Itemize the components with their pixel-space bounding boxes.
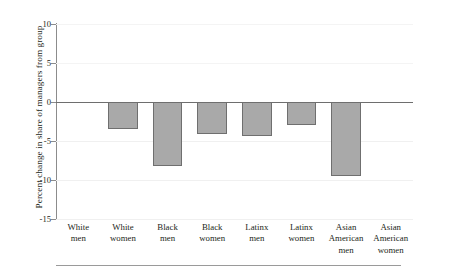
- y-axis-tick-label: 0: [17, 97, 51, 107]
- bar: [197, 102, 226, 134]
- bar: [108, 102, 137, 129]
- y-axis-tick-label: -10: [17, 175, 51, 185]
- y-axis-tick: [51, 180, 56, 181]
- gridline: [56, 180, 413, 181]
- bar-chart-figure: Percent change in share of managers from…: [0, 0, 449, 275]
- y-axis-line: [56, 23, 57, 220]
- x-axis-category-label-line: Asian: [364, 222, 417, 233]
- y-axis-tick: [51, 219, 56, 220]
- gridline: [56, 63, 413, 64]
- footer-rule: [56, 265, 401, 266]
- y-axis-tick-label: 5: [17, 58, 51, 68]
- x-axis-category-label: AsianAmericanwomen: [364, 222, 417, 256]
- x-axis-category-label-line: American: [364, 233, 417, 244]
- gridline: [56, 141, 413, 142]
- x-axis-category-label-line: women: [364, 245, 417, 256]
- bar: [242, 102, 271, 136]
- y-axis-tick-label: 10: [17, 19, 51, 29]
- y-axis-tick-label: -15: [17, 214, 51, 224]
- bar: [287, 102, 316, 125]
- y-axis-tick: [51, 24, 56, 25]
- y-axis-tick-label: -5: [17, 136, 51, 146]
- y-axis-tick: [51, 63, 56, 64]
- gridline: [56, 219, 413, 220]
- y-axis-tick: [51, 141, 56, 142]
- bar: [153, 102, 182, 166]
- zero-baseline: [56, 102, 413, 103]
- x-axis-category-labels: WhitemenWhitewomenBlackmenBlackwomenLati…: [56, 222, 413, 270]
- gridline: [56, 24, 413, 25]
- bar: [331, 102, 360, 176]
- y-axis-title: Percent change in share of managers from…: [34, 15, 44, 220]
